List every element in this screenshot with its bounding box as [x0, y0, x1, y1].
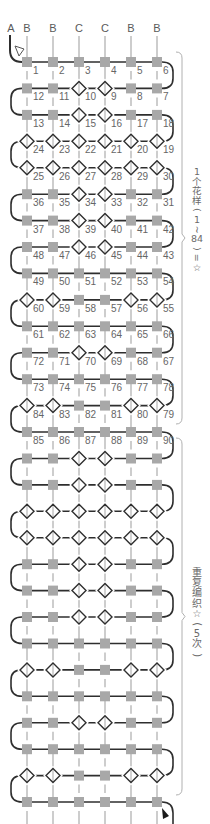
diamond-stitch-icon	[20, 531, 34, 545]
square-stitch-icon	[152, 454, 162, 464]
stitch-number: 48	[33, 250, 45, 261]
square-stitch-icon	[22, 216, 32, 226]
square-stitch-icon	[48, 57, 58, 67]
diamond-stitch-icon	[124, 769, 138, 783]
square-stitch-icon	[152, 57, 162, 67]
stitch-number: 23	[59, 144, 71, 155]
square-stitch-icon	[152, 639, 162, 649]
stitch-number: 74	[59, 382, 71, 393]
stitch-number: 1	[33, 65, 39, 76]
square-stitch-icon	[152, 242, 162, 252]
diamond-stitch-icon	[72, 504, 86, 518]
stitch-number: 24	[33, 144, 45, 155]
column-label-c: C	[75, 22, 83, 34]
square-stitch-icon	[100, 374, 110, 384]
stitch-number: 7	[163, 91, 169, 102]
square-stitch-icon	[74, 295, 84, 305]
stitch-number: 67	[163, 356, 175, 367]
diamond-stitch-icon	[46, 531, 60, 545]
square-stitch-icon	[100, 639, 110, 649]
square-stitch-icon	[100, 744, 110, 754]
square-stitch-icon	[152, 586, 162, 596]
stitch-number: 28	[111, 171, 123, 182]
diamond-stitch-icon	[98, 557, 112, 571]
annotation-glyph: 1	[194, 215, 200, 225]
square-stitch-icon	[22, 57, 32, 67]
square-stitch-icon	[126, 559, 136, 569]
stitch-number: 64	[111, 329, 123, 340]
stitch-number: 72	[33, 356, 45, 367]
pattern-brace	[176, 52, 185, 424]
column-label-b: B	[23, 22, 30, 34]
stitch-number: 11	[59, 91, 70, 102]
stitch-number: 66	[163, 329, 175, 340]
square-stitch-icon	[100, 797, 110, 807]
diamond-stitch-icon	[98, 214, 112, 228]
stitch-number: 79	[163, 409, 175, 420]
square-stitch-icon	[126, 480, 136, 490]
square-stitch-icon	[48, 321, 58, 331]
square-stitch-icon	[22, 744, 32, 754]
square-stitch-icon	[48, 718, 58, 728]
annotation-glyph: 84	[191, 234, 203, 244]
square-stitch-icon	[22, 427, 32, 437]
stitch-number: 59	[59, 303, 71, 314]
square-stitch-icon	[100, 691, 110, 701]
diamond-stitch-icon	[150, 504, 164, 518]
braces	[176, 52, 185, 795]
square-stitch-icon	[152, 480, 162, 490]
square-stitch-icon	[126, 744, 136, 754]
square-stitch-icon	[48, 216, 58, 226]
square-stitch-icon	[152, 110, 162, 120]
diamond-stitch-icon	[98, 134, 112, 148]
diamond-stitch-icon	[20, 134, 34, 148]
square-stitch-icon	[126, 454, 136, 464]
diamond-stitch-icon	[150, 769, 164, 783]
stitch-number: 41	[137, 224, 149, 235]
stitch-number: 12	[33, 91, 45, 102]
stitch-number: 60	[33, 303, 45, 314]
stitch-number: 62	[59, 329, 71, 340]
diamond-stitch-icon	[72, 610, 86, 624]
stitch-number: 37	[33, 224, 45, 235]
diamond-stitch-icon	[98, 346, 112, 360]
square-stitch-icon	[126, 216, 136, 226]
stitch-number: 30	[163, 171, 175, 182]
stitch-number: 52	[111, 276, 123, 287]
column-label-c: C	[101, 22, 109, 34]
diamond-stitch-icon	[46, 134, 60, 148]
stitch-number: 2	[59, 65, 65, 76]
square-stitch-icon	[126, 110, 136, 120]
square-stitch-icon	[100, 321, 110, 331]
diamond-stitch-icon	[72, 134, 86, 148]
diamond-stitch-icon	[150, 663, 164, 677]
square-stitch-icon	[48, 480, 58, 490]
stitch-number: 70	[85, 356, 97, 367]
square-stitch-icon	[74, 665, 84, 675]
stitch-number: 32	[137, 197, 149, 208]
square-stitch-icon	[126, 83, 136, 93]
square-stitch-icon	[48, 454, 58, 464]
stitch-number: 40	[111, 224, 123, 235]
square-stitch-icon	[100, 295, 110, 305]
square-stitch-icon	[48, 639, 58, 649]
square-stitch-icon	[126, 718, 136, 728]
diamond-stitch-icon	[150, 293, 164, 307]
diamond-stitch-icon	[46, 399, 60, 413]
square-stitch-icon	[22, 559, 32, 569]
stitch-number: 65	[137, 329, 149, 340]
square-stitch-icon	[152, 797, 162, 807]
square-stitch-icon	[22, 189, 32, 199]
diamond-stitch-icon	[46, 663, 60, 677]
diamond-stitch-icon	[20, 504, 34, 518]
stitch-number: 46	[85, 250, 97, 261]
square-stitch-icon	[126, 691, 136, 701]
square-stitch-icon	[74, 321, 84, 331]
square-stitch-icon	[22, 374, 32, 384]
square-stitch-icon	[48, 189, 58, 199]
diamond-stitch-icon	[124, 663, 138, 677]
diamond-stitch-icon	[20, 769, 34, 783]
square-stitch-icon	[126, 189, 136, 199]
square-stitch-icon	[48, 744, 58, 754]
square-stitch-icon	[152, 268, 162, 278]
